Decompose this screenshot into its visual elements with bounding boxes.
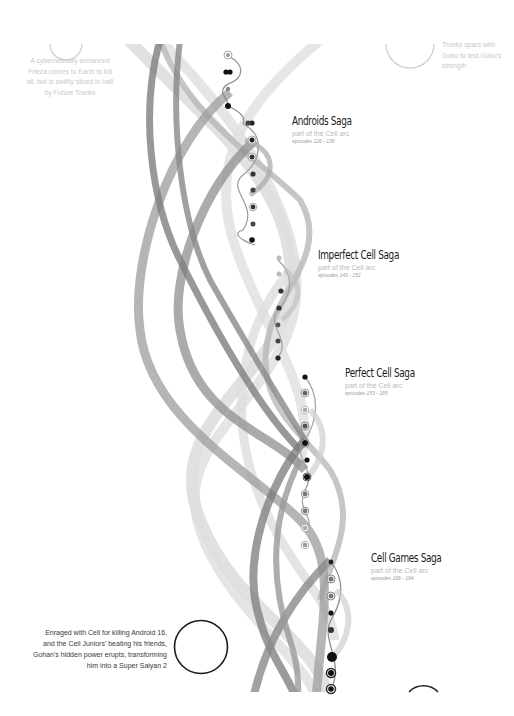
saga-title: Perfect Cell Saga [345, 366, 415, 380]
annotation-line: Enraged with Cell for killing Android 16… [20, 627, 167, 638]
episode-node[interactable] [328, 610, 333, 615]
episode-node[interactable] [277, 256, 282, 261]
annotation-line: A cybernetically enhanced [25, 56, 115, 67]
episode-flow-diagram [0, 0, 514, 716]
saga-label-perfect-cell: Perfect Cell Saga part of the Cell arc e… [345, 366, 426, 396]
episode-node[interactable] [328, 627, 334, 633]
annotation-line: by Future Trunks [25, 88, 115, 99]
callout-circle-gohan-ssj2[interactable] [175, 621, 228, 674]
saga-episodes: episodes 153 - 165 [345, 390, 426, 396]
saga-episodes: episodes 126 - 139 [292, 138, 361, 144]
annotation-gohan-ssj2: Enraged with Cell for killing Android 16… [20, 627, 167, 671]
episode-node[interactable] [304, 457, 309, 462]
annotation-frieza: A cybernetically enhanced Frieza comes t… [25, 56, 115, 98]
saga-label-imperfect-cell: Imperfect Cell Saga part of the Cell arc… [318, 248, 412, 278]
saga-arc: part of the Cell arc [318, 264, 412, 271]
episode-node[interactable] [277, 272, 282, 277]
saga-episodes: episodes 140 - 152 [318, 272, 412, 278]
saga-label-cell-games: Cell Games Saga part of the Cell arc epi… [371, 551, 453, 581]
episode-node[interactable] [249, 237, 255, 243]
episode-node[interactable] [225, 103, 231, 109]
annotation-line: him into a Super Saiyan 2 [20, 660, 167, 671]
saga-title: Androids Saga [292, 114, 352, 128]
annotation-line: Gohan's hidden power erupts, transformin… [20, 649, 167, 660]
saga-label-androids: Androids Saga part of the Cell arc episo… [292, 114, 361, 144]
saga-episodes: episodes 166 - 194 [371, 575, 453, 581]
episode-node[interactable] [226, 87, 230, 91]
annotation-line: Frieza comes to Earth to kill [25, 67, 115, 78]
episode-node[interactable] [276, 305, 281, 310]
annotation-line: Trunks spars with [442, 40, 501, 51]
annotation-line: all, but is swiftly sliced in half [25, 77, 115, 88]
annotation-line: Goku to test Goku's [442, 51, 501, 62]
callout-circle-trunks[interactable] [386, 44, 434, 68]
episode-node[interactable] [251, 222, 256, 227]
episode-node[interactable] [278, 288, 283, 293]
episode-node[interactable] [327, 652, 337, 662]
episode-node[interactable] [302, 374, 307, 379]
episode-node[interactable] [250, 187, 255, 192]
episode-node[interactable] [275, 355, 280, 360]
saga-title: Cell Games Saga [371, 551, 441, 565]
episode-node[interactable] [329, 560, 334, 565]
callout-circle-next[interactable] [409, 686, 438, 692]
saga-title: Imperfect Cell Saga [318, 248, 399, 262]
episode-node[interactable] [276, 323, 281, 328]
annotation-line: strength [442, 61, 501, 72]
saga-arc: part of the Cell arc [292, 130, 361, 137]
saga-arc: part of the Cell arc [345, 382, 426, 389]
episode-node[interactable] [276, 339, 281, 344]
annotation-trunks-spar: Trunks spars with Goku to test Goku's st… [442, 40, 501, 72]
saga-arc: part of the Cell arc [371, 567, 453, 574]
annotation-line: and the Cell Juniors' beating his friend… [20, 638, 167, 649]
episode-node[interactable] [250, 171, 255, 176]
